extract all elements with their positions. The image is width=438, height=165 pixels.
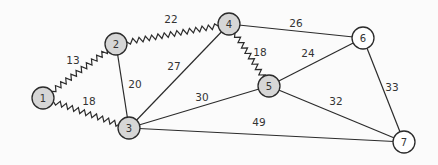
edge-weight-2-3: 20	[128, 78, 141, 90]
node-5: 5	[258, 75, 280, 97]
edge-weight-5-6: 24	[301, 47, 315, 59]
weighted-graph-diagram: 131822202730492618243233 1234567	[0, 0, 438, 165]
edge-weight-4-5: 18	[253, 46, 266, 58]
node-6: 6	[352, 27, 374, 49]
node-3: 3	[118, 117, 140, 139]
edge-weight-6-7: 33	[385, 81, 398, 93]
node-1: 1	[32, 87, 54, 109]
node-2: 2	[105, 33, 127, 55]
node-label: 7	[401, 137, 407, 148]
node-label: 4	[226, 19, 232, 30]
edge-weight-1-3: 18	[82, 95, 95, 107]
node-label: 1	[40, 93, 46, 104]
node-4: 4	[218, 13, 240, 35]
edge-weight-5-7: 32	[329, 95, 342, 107]
node-label: 6	[360, 33, 366, 44]
edge-2-4	[127, 24, 218, 44]
edge-weight-2-4: 22	[164, 13, 177, 25]
edge-weight-3-5: 30	[195, 91, 208, 103]
node-label: 2	[113, 39, 119, 50]
edge-3-7	[129, 128, 404, 142]
edge-weight-3-4: 27	[167, 60, 180, 72]
nodes-layer: 1234567	[32, 13, 415, 153]
node-label: 5	[266, 81, 272, 92]
edge-weight-3-7: 49	[252, 116, 265, 128]
edge-5-6	[269, 38, 363, 86]
edge-weight-4-6: 26	[289, 17, 303, 29]
edge-weight-1-2: 13	[66, 54, 79, 66]
node-7: 7	[393, 131, 415, 153]
node-label: 3	[126, 123, 132, 134]
edge-2-3	[116, 44, 129, 128]
graph-canvas: 131822202730492618243233 1234567	[0, 0, 438, 165]
